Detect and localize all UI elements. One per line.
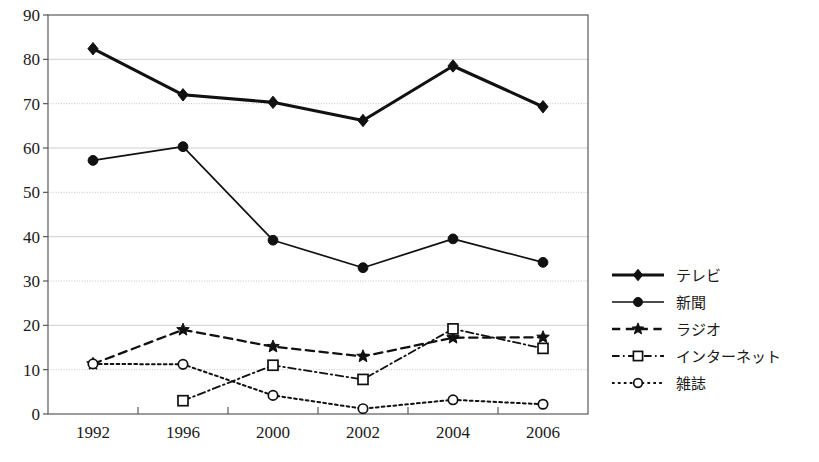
data-point-marker [268,360,278,370]
data-point-marker [538,257,548,267]
y-tick-label: 90 [23,6,40,25]
x-tick-label: 2002 [346,423,380,442]
data-point-marker [634,379,643,388]
data-point-marker [358,263,368,273]
data-point-marker [88,359,97,368]
data-point-marker [538,343,548,353]
x-tick-label: 1996 [166,423,200,442]
data-point-marker [358,404,367,413]
data-point-marker [358,374,368,384]
y-tick-label: 10 [23,361,40,380]
x-tick-label: 2000 [256,423,290,442]
y-tick-label: 40 [23,228,40,247]
legend-label: 新聞 [676,294,706,312]
line-chart: 0102030405060708090 19921996200020022004… [0,0,819,462]
data-point-marker [448,395,457,404]
legend-label: 雑誌 [676,375,706,393]
legend-label: テレビ [676,267,721,285]
x-tick-label: 2004 [436,423,471,442]
y-tick-label: 0 [32,405,41,424]
data-point-marker [88,156,98,166]
y-tick-label: 60 [23,139,40,158]
y-tick-label: 80 [23,50,40,69]
y-tick-label: 50 [23,183,40,202]
legend-label: ラジオ [676,321,721,339]
y-tick-label: 20 [23,316,40,335]
data-point-marker [448,234,458,244]
data-point-marker [448,324,458,334]
data-point-marker [268,391,277,400]
data-point-marker [633,351,642,360]
data-point-marker [633,297,642,306]
data-point-marker [268,235,278,245]
legend-label: インターネット [676,348,781,366]
y-tick-label: 70 [23,95,40,114]
y-tick-label: 30 [23,272,40,291]
data-point-marker [538,400,547,409]
data-point-marker [178,396,188,406]
data-point-marker [178,142,188,152]
x-tick-label: 1992 [76,423,110,442]
data-point-marker [178,360,187,369]
x-tick-label: 2006 [526,423,560,442]
